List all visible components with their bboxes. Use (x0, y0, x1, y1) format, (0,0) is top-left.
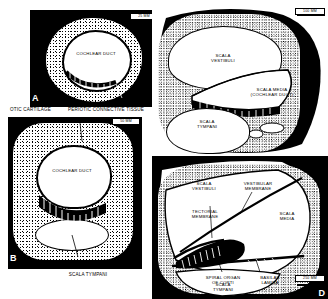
panel-d-label-scala-vestibuli-line2: VESTIBULI (174, 187, 234, 192)
panel-b: B COCHLEAR DUCT 50 MM (8, 117, 142, 269)
figure-plate: A COCHLEAR DUCT 25 MM OTIC CARTILAGE PER… (0, 0, 328, 299)
panel-c-label-scala-vestibuli-line2: VESTIBULI (198, 59, 248, 64)
label-periotic-connective-tissue: PERIOTIC CONNECTIVE TISSUE (68, 107, 158, 112)
panel-d-label-tectorial-membrane-line2: MEMBRANE (176, 215, 234, 220)
panel-d: SCALA VESTIBULI VESTIBULAR MEMBRANE TECT… (152, 156, 328, 299)
panel-b-label-scala-tympani: SCALA TYMPANI (58, 272, 118, 277)
panel-a-letter: A (32, 93, 39, 103)
panel-b-scale-bar (114, 124, 140, 126)
panel-d-label-scala-media-line2: MEDIA (264, 217, 310, 222)
panel-d-letter: D (319, 288, 326, 298)
panel-a-epithelium (30, 10, 160, 107)
panel-a-label-cochlear-duct: COCHLEAR DUCT (68, 52, 124, 57)
panel-c-scale-bar (297, 14, 325, 16)
panel-c-scala-tympani-lumen (166, 108, 250, 154)
label-otic-cartilage: OTIC CARTILAGE (10, 107, 70, 112)
panel-d-label-basilar-lamina-line2: LAMINA (244, 281, 296, 286)
panel-b-letter: B (10, 253, 17, 263)
panel-b-label-cochlear-duct: COCHLEAR DUCT (42, 169, 102, 174)
panel-c-label-cochlear-duct: (COCHLEAR DUCT) (244, 93, 300, 98)
panel-a: A COCHLEAR DUCT 25 MM (30, 10, 160, 107)
panel-c-label-scala-tympani-line2: TYMPANI (182, 125, 232, 130)
panel-c-letter: C (319, 132, 326, 142)
panel-d-label-vestibular-membrane-line2: MEMBRANE (230, 187, 286, 192)
panel-d-scale-label: 250 MM (295, 275, 325, 282)
panel-b-organ-of-corti (8, 117, 142, 269)
panel-d-label-scala-tympani-line2: TYMPANI (198, 288, 248, 293)
panel-d-scale-bar (297, 284, 325, 286)
panel-c: SCALA VESTIBULI SCALA MEDIA (COCHLEAR DU… (152, 4, 328, 156)
